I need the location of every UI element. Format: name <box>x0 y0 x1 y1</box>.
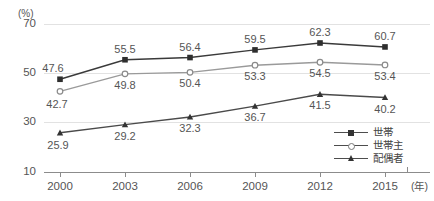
data-point <box>317 59 323 65</box>
data-point <box>122 71 128 77</box>
data-point-label: 42.7 <box>37 99 77 110</box>
data-point-label: 41.5 <box>300 100 340 111</box>
legend-label-setainushi: 世帯主 <box>368 139 403 152</box>
data-point-label: 29.2 <box>105 131 145 142</box>
data-point <box>187 55 193 61</box>
chart-container: (%) 70 50 30 10 2000 2003 2006 2009 2012… <box>0 0 434 201</box>
data-point-label: 59.5 <box>235 34 275 45</box>
data-point-label: 56.4 <box>170 42 210 53</box>
legend-item-setainushi[interactable]: 世帯主 <box>334 139 410 152</box>
data-point <box>252 62 258 68</box>
legend-marker-filled-triangle-icon <box>334 152 368 165</box>
data-point-label: 25.9 <box>38 140 78 151</box>
legend-item-setai[interactable]: 世帯 <box>334 126 410 139</box>
data-point <box>382 44 388 50</box>
data-point <box>382 62 388 68</box>
data-point-label: 53.3 <box>235 71 275 82</box>
data-point <box>57 89 63 95</box>
data-point-label: 55.5 <box>105 44 145 55</box>
data-point <box>57 76 63 82</box>
data-point-label: 32.3 <box>170 123 210 134</box>
chart-legend: 世帯 世帯主 配偶者 <box>334 126 410 165</box>
data-point-label: 49.8 <box>105 80 145 91</box>
data-point-label: 53.4 <box>365 71 405 82</box>
data-point <box>252 47 258 53</box>
data-point <box>187 70 193 76</box>
data-point-label: 50.4 <box>170 78 210 89</box>
legend-item-haiguusha[interactable]: 配偶者 <box>334 152 410 165</box>
data-point-label: 62.3 <box>300 27 340 38</box>
legend-label-haiguusha: 配偶者 <box>368 152 403 165</box>
legend-label-setai: 世帯 <box>368 126 393 139</box>
data-point-label: 47.6 <box>33 63 73 74</box>
data-point-label: 36.7 <box>235 112 275 123</box>
legend-marker-filled-square-icon <box>334 126 368 139</box>
legend-marker-open-circle-icon <box>334 139 368 152</box>
data-point-label: 60.7 <box>365 31 405 42</box>
data-point <box>317 40 323 46</box>
data-point <box>122 57 128 63</box>
data-point-label: 40.2 <box>365 104 405 115</box>
data-point-label: 54.5 <box>300 68 340 79</box>
